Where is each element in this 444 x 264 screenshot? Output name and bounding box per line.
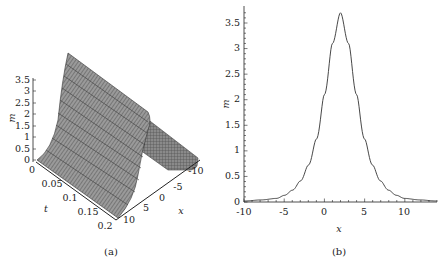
z-axis-label: m — [6, 113, 17, 122]
x-tick-label: -10 — [236, 206, 251, 217]
x-tick-label: 0 — [159, 192, 165, 203]
x-tick-label: 10 — [398, 206, 410, 217]
t-tick-label: 0 — [29, 164, 35, 175]
t-tick-label: 0.2 — [97, 220, 112, 231]
t-tick-label: 0.1 — [62, 192, 77, 203]
x-tick-label: 5 — [143, 202, 149, 213]
x-tick-label: 0 — [321, 206, 327, 217]
y-tick-label: 0.5 — [225, 170, 240, 181]
panel-a-caption: (a) — [104, 246, 118, 257]
y-axis-label: m — [220, 99, 231, 108]
y-tick-label: 2 — [234, 93, 240, 104]
z-tick-label: 0.5 — [15, 143, 30, 154]
z-tick-label: 2.5 — [15, 97, 30, 108]
data-curve — [244, 13, 437, 201]
t-axis-label: t — [44, 203, 48, 214]
z-tick-label: 3 — [24, 85, 30, 96]
x-tick-label: 10 — [123, 214, 135, 225]
x-tick-label: 5 — [361, 206, 367, 217]
y-tick-label: 3.5 — [225, 17, 240, 28]
y-tick-label: 1.5 — [225, 119, 240, 130]
x-tick-label: -5 — [173, 181, 182, 192]
t-tick-label: 0.15 — [77, 206, 98, 217]
y-tick-label: 3 — [234, 42, 240, 53]
x-tick-label: -5 — [279, 206, 288, 217]
x-axis-label: x — [178, 205, 184, 216]
figure: 3.5 3 2.5 2 1.5 1 0.5 0 m 0 0.05 0.1 0.1… — [0, 0, 444, 264]
surface-ridge — [37, 53, 150, 218]
z-tick-label: 1.5 — [15, 120, 30, 131]
z-tick-label: 1 — [24, 131, 30, 142]
t-tick-label: 0.05 — [41, 178, 62, 189]
y-tick-label: 2.5 — [225, 68, 240, 79]
panel-b-caption: (b) — [332, 246, 346, 257]
y-ticks — [244, 13, 248, 202]
panel-a-surface-plot: 3.5 3 2.5 2 1.5 1 0.5 0 m 0 0.05 0.1 0.1… — [6, 53, 204, 257]
x-axis-label: x — [336, 223, 342, 234]
y-tick-label: 1 — [234, 144, 240, 155]
z-tick-label: 3.5 — [15, 74, 30, 85]
x-tick-label: -10 — [188, 165, 203, 176]
z-tick-label: 2 — [24, 108, 30, 119]
panel-b-line-plot: 3.5 3 2.5 2 1.5 1 0.5 0 m -10 -5 0 5 10 … — [220, 6, 437, 257]
